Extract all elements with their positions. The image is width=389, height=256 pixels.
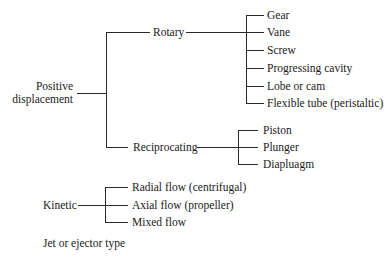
positive-label-line2: displacement: [0, 93, 73, 106]
rotary-child-screw: Screw: [267, 44, 296, 57]
rotary-child-flexible-tube: Flexible tube (peristaltic): [267, 97, 383, 110]
jet-label: Jet or ejector type: [43, 237, 125, 250]
kinetic-label: Kinetic: [43, 199, 77, 212]
kinetic-child-radial: Radial flow (centrifugal): [132, 181, 246, 194]
reciprocating-child-diaphragm: Diapluagm: [263, 158, 314, 171]
reciprocating-label: Reciprocating: [133, 141, 198, 154]
connector-lines: [0, 0, 389, 256]
kinetic-child-axial: Axial flow (propeller): [132, 199, 234, 212]
rotary-child-gear: Gear: [267, 9, 289, 22]
reciprocating-child-piston: Piston: [263, 124, 292, 137]
rotary-label: Rotary: [153, 26, 184, 39]
kinetic-child-mixed: Mixed flow: [132, 216, 186, 229]
rotary-child-lobe: Lobe or cam: [267, 80, 325, 93]
reciprocating-child-plunger: Plunger: [263, 141, 299, 154]
rotary-child-progressing-cavity: Progressing cavity: [267, 62, 352, 75]
rotary-child-vane: Vane: [267, 26, 290, 39]
positive-label-line1: Positive: [0, 80, 73, 93]
